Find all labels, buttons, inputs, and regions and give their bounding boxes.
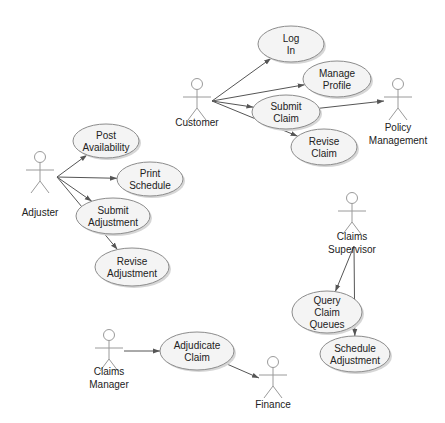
use-case-label: Adjudicate (174, 340, 221, 351)
use-case-label: Claim (314, 307, 340, 318)
actor-head-icon (192, 79, 203, 90)
use-case-label: In (287, 45, 295, 56)
use-case-label: Schedule (334, 343, 376, 354)
actor-label: Manager (89, 379, 129, 390)
use-case-label: Claim (311, 148, 337, 159)
actor-claims-supervisor[interactable]: ClaimsSupervisor (328, 193, 376, 256)
use-case-label: Availability (82, 142, 129, 153)
use-case-label: Revise (309, 136, 340, 147)
actor-left-leg (389, 108, 398, 120)
actor-head-icon (393, 79, 404, 90)
actor-adjuster[interactable]: Adjuster (22, 152, 59, 219)
actor-label: Finance (255, 399, 291, 410)
actor-right-leg (40, 181, 49, 193)
association-submit-claim-to-policy-management (319, 101, 384, 108)
actor-label: Supervisor (328, 244, 376, 255)
actor-head-icon (347, 193, 358, 204)
use-case-label: Adjustment (88, 217, 138, 228)
use-case-post-availability[interactable]: PostAvailability (73, 124, 141, 160)
use-case-log-in[interactable]: LogIn (258, 26, 326, 64)
use-case-schedule-adjustment[interactable]: ScheduleAdjustment (320, 336, 392, 374)
use-case-label: Adjustment (107, 268, 157, 279)
use-case-label: Submit (97, 205, 128, 216)
use-case-label: Adjustment (330, 355, 380, 366)
association-customer-to-log-in (212, 58, 271, 101)
use-case-query-claim-queues[interactable]: QueryClaimQueues (292, 291, 364, 335)
use-case-label: Profile (323, 80, 352, 91)
use-case-adjudicate-claim[interactable]: AdjudicateClaim (160, 332, 236, 372)
actor-left-leg (264, 386, 273, 398)
use-case-label: Queues (309, 319, 344, 330)
use-case-label: Revise (117, 256, 148, 267)
use-case-revise-claim[interactable]: ReviseClaim (291, 129, 359, 167)
association-adjuster-to-print-schedule (57, 177, 117, 178)
use-case-manage-profile[interactable]: ManageProfile (303, 61, 373, 99)
actor-right-leg (398, 108, 407, 120)
actor-left-leg (31, 181, 40, 193)
actor-finance[interactable]: Finance (255, 357, 291, 411)
use-case-label: Log (283, 33, 300, 44)
use-case-diagram: LogInManageProfileSubmitClaimReviseClaim… (0, 0, 445, 423)
use-case-label: Post (96, 130, 116, 141)
actor-label: Policy (385, 122, 412, 133)
association-adjudicate-claim-to-finance (225, 363, 259, 378)
actor-head-icon (268, 357, 279, 368)
use-case-label: Query (313, 295, 340, 306)
use-case-print-schedule[interactable]: PrintSchedule (117, 162, 185, 198)
actor-head-icon (104, 330, 115, 341)
use-case-label: Manage (319, 68, 356, 79)
use-case-submit-adjustment[interactable]: SubmitAdjustment (76, 198, 152, 236)
actor-label: Claims (337, 231, 368, 242)
actor-claims-manager[interactable]: ClaimsManager (89, 330, 129, 391)
actor-label: Management (369, 135, 428, 146)
actor-right-leg (273, 386, 282, 398)
use-case-revise-adjustment[interactable]: ReviseAdjustment (95, 248, 171, 288)
actor-label: Claims (94, 366, 125, 377)
actor-head-icon (35, 152, 46, 163)
use-case-label: Claim (184, 352, 210, 363)
use-case-label: Claim (273, 113, 299, 124)
association-adjuster-to-post-availability (57, 155, 87, 177)
actor-label: Customer (175, 117, 219, 128)
actor-customer[interactable]: Customer (175, 79, 219, 129)
actor-policy-management[interactable]: PolicyManagement (369, 79, 428, 147)
use-case-label: Print (140, 168, 161, 179)
use-case-label: Submit (270, 101, 301, 112)
use-case-label: Schedule (129, 180, 171, 191)
actor-label: Adjuster (22, 207, 59, 218)
use-cases: LogInManageProfileSubmitClaimReviseClaim… (73, 26, 392, 374)
use-case-submit-claim[interactable]: SubmitClaim (252, 95, 322, 131)
